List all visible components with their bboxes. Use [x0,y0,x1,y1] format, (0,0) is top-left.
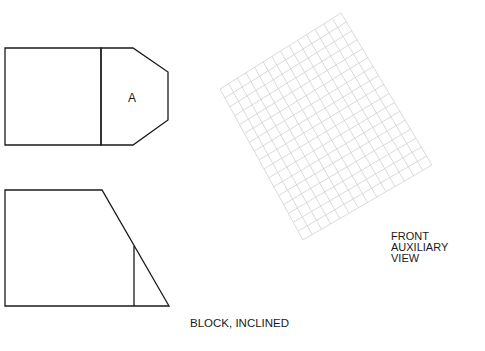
top-view: A [5,48,168,145]
label-line-view: VIEW [391,253,481,264]
top-view-rectangle [5,48,101,145]
front-auxiliary-view-label: FRONT AUXILIARY VIEW [391,231,481,264]
front-view [5,190,169,306]
caption-block-inclined: BLOCK, INCLINED [190,318,289,329]
front-view-outline [5,190,169,306]
auxiliary-view-grid [220,13,432,240]
drawing-canvas: A [0,0,485,351]
surface-a-label: A [128,91,136,105]
